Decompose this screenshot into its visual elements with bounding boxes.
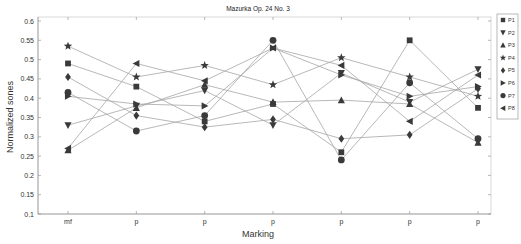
diamond-marker-icon (202, 123, 208, 131)
legend-item-label: P3 (508, 42, 515, 48)
y-tick-label: 0.2 (24, 172, 34, 179)
square-legend-icon (501, 18, 505, 22)
y-tick-label: 0.25 (20, 153, 34, 160)
circle-marker-icon (475, 135, 482, 142)
x-tick-label: p (134, 218, 138, 226)
square-marker-icon (407, 37, 413, 43)
plot-area (38, 17, 491, 214)
circle-marker-icon (406, 79, 413, 86)
plot-frame (38, 17, 491, 214)
chart: Mazurka Op. 24 No. 3 0.10.150.20.250.30.… (0, 0, 521, 244)
triangle-left-marker-icon (133, 60, 140, 67)
y-tick-label: 0.3 (24, 133, 34, 140)
star-marker-icon (64, 42, 72, 50)
square-marker-icon (475, 105, 481, 111)
y-tick-label: 0.6 (24, 18, 34, 25)
circle-marker-icon (133, 128, 140, 135)
legend-item-label: P4 (508, 55, 515, 61)
legend: P1P2P3P4P5P6P7P8 (497, 14, 518, 119)
x-axis: mfpppppp (38, 17, 491, 226)
star-marker-icon (200, 61, 208, 69)
x-tick-label: p (339, 218, 343, 226)
triangle-down-marker-icon (64, 122, 71, 129)
diamond-marker-icon (338, 135, 344, 143)
diamond-marker-icon (133, 111, 139, 119)
star-marker-icon (132, 73, 140, 81)
series-line-p1 (68, 40, 478, 152)
legend-item-label: P1 (508, 17, 515, 23)
circle-marker-icon (270, 37, 277, 44)
x-axis-label: Marking (242, 229, 274, 239)
diamond-marker-icon (407, 131, 413, 139)
triangle-left-marker-icon (474, 71, 481, 78)
x-tick-label: mf (64, 218, 72, 225)
x-tick-label: p (476, 218, 480, 226)
y-tick-label: 0.15 (20, 191, 34, 198)
star-marker-icon (337, 53, 345, 61)
x-tick-label: p (408, 218, 412, 226)
y-tick-label: 0.35 (20, 114, 34, 121)
x-tick-label: p (203, 218, 207, 226)
y-axis: 0.10.150.20.250.30.350.40.450.50.550.6 (20, 17, 491, 218)
legend-item-label: P7 (508, 93, 515, 99)
triangle-left-marker-icon (338, 62, 345, 69)
star-marker-icon (269, 80, 277, 88)
circle-marker-icon (65, 89, 72, 96)
series-line-p6 (68, 48, 478, 106)
y-tick-label: 0.55 (20, 37, 34, 44)
series-line-p8 (68, 48, 478, 148)
legend-item-label: P2 (508, 30, 515, 36)
circle-legend-icon (500, 93, 505, 98)
circle-marker-icon (201, 112, 208, 119)
square-marker-icon (133, 84, 139, 90)
star-marker-icon (405, 73, 413, 81)
legend-item-label: P5 (508, 67, 515, 73)
y-tick-label: 0.45 (20, 75, 34, 82)
y-tick-label: 0.1 (24, 211, 34, 218)
legend-item-label: P6 (508, 80, 515, 86)
diamond-marker-icon (65, 73, 71, 81)
square-marker-icon (65, 61, 71, 67)
y-tick-label: 0.4 (24, 95, 34, 102)
triangle-right-marker-icon (407, 93, 414, 100)
square-marker-icon (338, 149, 344, 155)
x-tick-label: p (271, 218, 275, 226)
y-axis-label: Normalized sones (5, 80, 15, 153)
y-tick-label: 0.5 (24, 56, 34, 63)
star-marker-icon (474, 92, 482, 100)
chart-title: Mazurka Op. 24 No. 3 (226, 5, 290, 13)
circle-marker-icon (338, 157, 345, 164)
legend-item-label: P8 (508, 105, 515, 111)
